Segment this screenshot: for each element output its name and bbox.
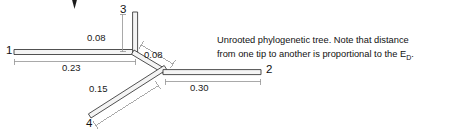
distance-label-0-30: 0.30	[190, 83, 209, 93]
tip-label-4: 4	[86, 118, 92, 130]
distance-label-0-23: 0.23	[62, 63, 81, 73]
distance-label-0-08-internal: 0.08	[144, 50, 163, 60]
distance-label-0-15: 0.15	[89, 84, 108, 94]
arrow-cursor-artifact	[71, 0, 79, 9]
phylogenetic-tree-figure: 1 3 2 4 0.23 0.08 0.08 0.15 0.30 Unroote…	[0, 0, 450, 132]
measure-0-30	[165, 79, 261, 85]
figure-caption: Unrooted phylogenetic tree. Note that di…	[217, 34, 450, 61]
caption-line-2: from one tip to another is proportional …	[217, 49, 406, 59]
branch-tip-3	[133, 12, 138, 54]
tip-label-2: 2	[266, 64, 272, 76]
branch-tip-2	[163, 70, 261, 75]
measure-0-08-tip3	[120, 14, 126, 52]
caption-line-1: Unrooted phylogenetic tree. Note that di…	[217, 35, 409, 45]
tip-label-1: 1	[6, 45, 12, 57]
tip-label-3: 3	[120, 4, 126, 16]
caption-line-2-end: .	[411, 49, 414, 59]
branch-tip-1	[14, 50, 136, 55]
branch-group	[14, 12, 261, 118]
distance-label-0-08-tip3: 0.08	[87, 33, 106, 43]
